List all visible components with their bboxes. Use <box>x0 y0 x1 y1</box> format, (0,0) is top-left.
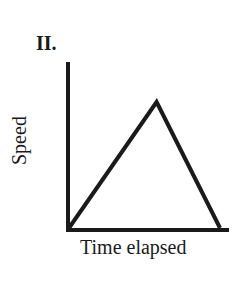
x-axis-label: Time elapsed <box>80 236 186 259</box>
speed-series-line <box>69 102 220 228</box>
